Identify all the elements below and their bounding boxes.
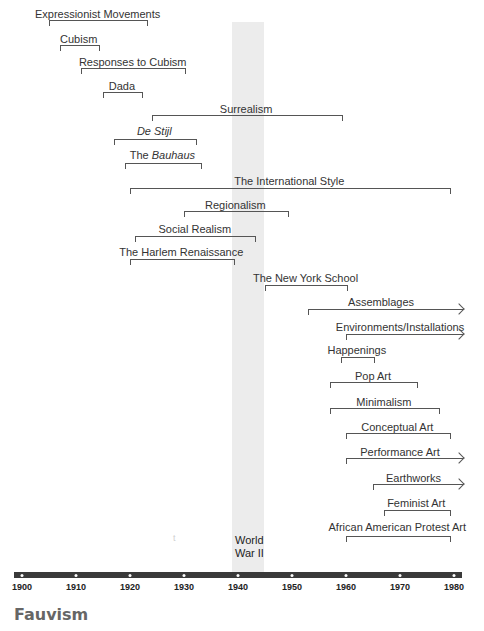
tick-dot — [291, 574, 294, 577]
movement-label: Minimalism — [356, 396, 411, 408]
movement-label: Conceptual Art — [361, 421, 433, 433]
span-bracket — [130, 188, 451, 194]
movement-label: Happenings — [327, 344, 386, 356]
span-bracket — [346, 536, 451, 542]
tick-dot — [129, 574, 132, 577]
movement-label: Expressionist Movements — [35, 8, 160, 20]
movement-label: Environments/Installations — [336, 321, 464, 333]
wwii-label: World War II — [235, 534, 264, 560]
wwii-label-line1: World — [235, 534, 264, 547]
span-bracket — [341, 357, 375, 363]
span-bracket — [152, 115, 343, 121]
span-bracket — [130, 259, 235, 265]
tick-label: 1930 — [174, 582, 194, 592]
span-bracket — [330, 382, 418, 388]
movement-label: Performance Art — [360, 446, 439, 458]
movement-label: Dada — [109, 80, 135, 92]
wwii-label-line2: War II — [235, 547, 264, 560]
movement-label: Pop Art — [355, 370, 391, 382]
tick-dot — [345, 574, 348, 577]
section-title: Fauvism — [14, 605, 88, 624]
span-bracket — [125, 163, 203, 169]
span-bracket — [346, 433, 451, 439]
movement-label: Responses to Cubism — [79, 56, 187, 68]
span-bracket — [103, 92, 143, 98]
tick-dot — [237, 574, 240, 577]
tick-label: 1950 — [282, 582, 302, 592]
tick-label: 1980 — [444, 582, 464, 592]
movement-label: Social Realism — [158, 223, 231, 235]
tick-dot — [75, 574, 78, 577]
movement-label: The New York School — [253, 272, 358, 284]
movement-label: African American Protest Art — [329, 521, 467, 533]
tick-label: 1910 — [66, 582, 86, 592]
span-bracket — [114, 139, 197, 145]
stray-mark: t — [173, 533, 176, 543]
movement-label: Earthworks — [386, 472, 441, 484]
movement-label: The Bauhaus — [130, 149, 195, 161]
span-bracket — [265, 285, 348, 291]
span-bracket — [184, 211, 289, 217]
tick-label: 1970 — [390, 582, 410, 592]
span-bracket — [49, 20, 148, 26]
ongoing-span-arrow — [308, 309, 463, 315]
span-bracket — [330, 408, 440, 414]
movement-label: The International Style — [234, 175, 344, 187]
tick-label: 1900 — [12, 582, 32, 592]
movement-label: Feminist Art — [387, 497, 445, 509]
movement-label: Assemblages — [348, 296, 414, 308]
movement-label: Surrealism — [220, 103, 273, 115]
tick-label: 1960 — [336, 582, 356, 592]
span-bracket — [384, 510, 451, 516]
tick-dot — [21, 574, 24, 577]
movement-label: The Harlem Renaissance — [119, 246, 243, 258]
span-bracket — [135, 236, 256, 242]
ongoing-span-arrow — [346, 334, 463, 340]
tick-dot — [399, 574, 402, 577]
art-movements-timeline: World War II Expressionist MovementsCubi… — [0, 0, 484, 631]
movement-label: Cubism — [60, 33, 97, 45]
tick-dot — [453, 574, 456, 577]
tick-label: 1940 — [228, 582, 248, 592]
tick-dot — [183, 574, 186, 577]
tick-label: 1920 — [120, 582, 140, 592]
span-bracket — [81, 68, 186, 74]
span-bracket — [60, 45, 100, 51]
movement-label: Regionalism — [205, 199, 266, 211]
movement-label: De Stijl — [137, 125, 172, 137]
ongoing-span-arrow — [373, 484, 463, 490]
ongoing-span-arrow — [346, 458, 463, 464]
